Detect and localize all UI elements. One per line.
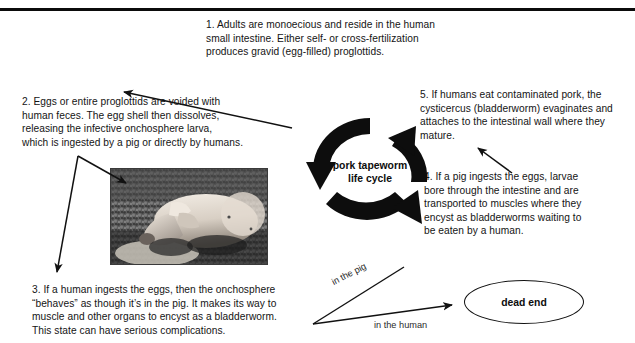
pork-tapeworm-life-cycle-diagram: pork tapeworm life cycle <box>296 112 444 238</box>
step-1-text: 1. Adults are monoecious and reside in t… <box>206 18 496 59</box>
step-3-text: 3. If a human ingests the eggs, then the… <box>32 283 332 337</box>
step-5-text: 5. If humans eat contaminated pork, the … <box>420 88 632 142</box>
edge-label-in-the-human: in the human <box>374 320 427 330</box>
figure-canvas: 1. Adults are monoecious and reside in t… <box>0 0 635 343</box>
pig-photo <box>110 168 268 265</box>
edge-label-in-the-pig: in the pig <box>330 261 368 287</box>
arrow-step2-to-step3 <box>57 156 78 272</box>
step-4-text: 4. If a pig ingests the eggs, larvae bor… <box>424 170 630 238</box>
step-2-text: 2. Eggs or entire proglottids are voided… <box>22 95 294 149</box>
top-divider-rule <box>0 8 635 11</box>
dead-end-label: dead end <box>501 297 547 308</box>
cycle-arrows-icon <box>296 112 444 238</box>
pig-photo-image <box>111 169 267 264</box>
dead-end-node: dead end <box>464 280 584 324</box>
